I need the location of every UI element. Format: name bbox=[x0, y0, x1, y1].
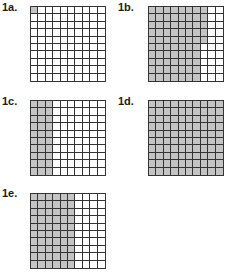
grid-cell bbox=[38, 123, 45, 130]
grid-cell bbox=[46, 261, 53, 268]
grid-cell bbox=[31, 201, 38, 208]
grid-cell bbox=[90, 131, 97, 138]
grid-cell bbox=[193, 160, 200, 167]
grid-cell bbox=[90, 231, 97, 238]
grid-cell bbox=[208, 7, 215, 14]
grid-cell bbox=[90, 74, 97, 81]
grid-cell bbox=[98, 216, 105, 223]
grid-cell bbox=[186, 22, 193, 29]
grid-cell bbox=[68, 253, 75, 260]
grid-cell bbox=[53, 261, 60, 268]
grid-cell bbox=[53, 14, 60, 21]
grid-cell bbox=[38, 116, 45, 123]
grid-cell bbox=[208, 168, 215, 175]
grid-cell bbox=[201, 131, 208, 138]
grid-cell bbox=[98, 108, 105, 115]
grid-cell bbox=[61, 153, 68, 160]
grid-cell bbox=[68, 51, 75, 58]
grid-cell bbox=[149, 44, 156, 51]
grid-cell bbox=[216, 138, 223, 145]
grid-cell bbox=[83, 138, 90, 145]
grid-cell bbox=[156, 101, 163, 108]
grid-cell bbox=[83, 101, 90, 108]
grid-cell bbox=[156, 74, 163, 81]
grid-cell bbox=[68, 209, 75, 216]
grid-cell bbox=[68, 74, 75, 81]
grid-cell bbox=[90, 261, 97, 268]
grid-cell bbox=[208, 37, 215, 44]
grid-cell bbox=[46, 108, 53, 115]
grid-cell bbox=[193, 131, 200, 138]
grid-cell bbox=[46, 246, 53, 253]
grid-cell bbox=[208, 160, 215, 167]
grid-cell bbox=[83, 231, 90, 238]
grid-cell bbox=[186, 14, 193, 21]
grid-cell bbox=[90, 37, 97, 44]
grid-cell bbox=[46, 145, 53, 152]
grid-cell bbox=[38, 108, 45, 115]
grid-cell bbox=[171, 123, 178, 130]
grid-cell bbox=[164, 160, 171, 167]
grid-cell bbox=[83, 253, 90, 260]
grid-cell bbox=[68, 108, 75, 115]
grid-cell bbox=[83, 216, 90, 223]
grid-cell bbox=[193, 153, 200, 160]
grid-cell bbox=[98, 51, 105, 58]
grid-cell bbox=[31, 37, 38, 44]
grid-cell bbox=[31, 194, 38, 201]
grid-cell bbox=[193, 101, 200, 108]
grid-cell bbox=[31, 116, 38, 123]
grid-cell bbox=[98, 224, 105, 231]
grid-cell bbox=[186, 51, 193, 58]
grid-cell bbox=[179, 7, 186, 14]
grid-cell bbox=[31, 253, 38, 260]
grid-cell bbox=[90, 145, 97, 152]
grid-cell bbox=[216, 59, 223, 66]
grid-cell bbox=[186, 160, 193, 167]
grid-cell bbox=[83, 145, 90, 152]
grid-cell bbox=[90, 160, 97, 167]
grid-cell bbox=[46, 201, 53, 208]
grid-cell bbox=[46, 209, 53, 216]
grid-cell bbox=[216, 153, 223, 160]
grid-cell bbox=[216, 131, 223, 138]
grid-cell bbox=[68, 37, 75, 44]
grid-cell bbox=[68, 29, 75, 36]
grid-cell bbox=[201, 160, 208, 167]
grid-cell bbox=[201, 116, 208, 123]
grid-cell bbox=[179, 153, 186, 160]
grid-cell bbox=[53, 131, 60, 138]
grid-cell bbox=[46, 168, 53, 175]
grid-cell bbox=[208, 123, 215, 130]
grid-cell bbox=[149, 51, 156, 58]
grid-cell bbox=[156, 145, 163, 152]
grid-cell bbox=[75, 59, 82, 66]
grid-cell bbox=[75, 246, 82, 253]
grid-cell bbox=[216, 116, 223, 123]
grid-cell bbox=[83, 44, 90, 51]
grid-cell bbox=[201, 7, 208, 14]
grid-cell bbox=[193, 74, 200, 81]
grid-cell bbox=[53, 22, 60, 29]
grid-cell bbox=[83, 66, 90, 73]
grid-cell bbox=[186, 66, 193, 73]
grid-cell bbox=[61, 123, 68, 130]
grid-cell bbox=[83, 7, 90, 14]
grid-cell bbox=[68, 238, 75, 245]
grid-cell bbox=[90, 138, 97, 145]
grid-cell bbox=[149, 123, 156, 130]
grid-cell bbox=[149, 66, 156, 73]
grid-cell bbox=[98, 201, 105, 208]
grid-cell bbox=[38, 145, 45, 152]
grid-cell bbox=[98, 29, 105, 36]
grid-cell bbox=[90, 209, 97, 216]
grid-cell bbox=[75, 51, 82, 58]
grid-cell bbox=[46, 153, 53, 160]
grid-cell bbox=[31, 44, 38, 51]
grid-cell bbox=[83, 238, 90, 245]
grid-cell bbox=[156, 116, 163, 123]
grid-cell bbox=[75, 7, 82, 14]
grid-cell bbox=[75, 37, 82, 44]
grid-cell bbox=[90, 7, 97, 14]
grid-cell bbox=[171, 153, 178, 160]
